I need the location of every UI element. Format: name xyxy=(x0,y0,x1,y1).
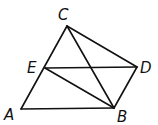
label-a: A xyxy=(3,106,14,124)
segment-ab xyxy=(21,108,114,109)
segment-eb xyxy=(45,68,114,108)
vertex-labels: A B C D E xyxy=(3,6,152,125)
label-e: E xyxy=(27,59,37,77)
segment-ed xyxy=(45,67,137,68)
segment-db xyxy=(114,67,137,108)
label-d: D xyxy=(140,59,152,77)
segments xyxy=(21,26,137,109)
segment-cd xyxy=(67,26,137,67)
geometry-diagram: A B C D E xyxy=(0,0,158,125)
label-b: B xyxy=(117,108,127,125)
label-c: C xyxy=(58,6,69,24)
